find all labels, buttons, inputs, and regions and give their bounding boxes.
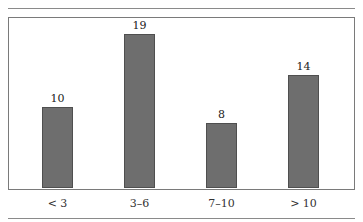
bar [124,34,155,188]
x-tick-label: 7–10 [192,198,252,210]
bar [288,75,319,188]
bar-value-label: 10 [38,93,78,105]
bar-value-label: 14 [284,61,324,73]
x-tick-label: 3–6 [110,198,170,210]
bar-value-label: 19 [120,20,160,32]
top-rule [8,8,355,9]
x-tick-label: < 3 [28,198,88,210]
bottom-rule [8,218,355,219]
bar [206,123,237,188]
x-tick-label: > 10 [274,198,334,210]
bar-value-label: 8 [202,109,242,121]
bar [42,107,73,188]
